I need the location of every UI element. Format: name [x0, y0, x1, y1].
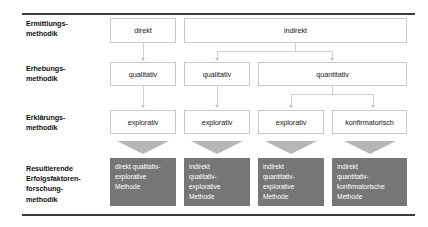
funnel-arrow-icon	[265, 141, 317, 154]
connector-indirekt-bus	[217, 51, 333, 52]
arrowhead-icon	[141, 58, 145, 61]
arrowhead-icon	[330, 58, 334, 61]
arrowhead-icon	[215, 58, 219, 61]
arrowhead-icon	[289, 105, 293, 108]
node-explorativ-3[interactable]: explorativ	[258, 110, 324, 134]
node-explorativ-2[interactable]: explorativ	[184, 110, 250, 134]
node-explorativ-1[interactable]: explorativ	[110, 110, 176, 134]
funnel-arrow-icon	[117, 141, 169, 154]
node-qualitativ-direkt[interactable]: qualitativ	[110, 62, 176, 86]
arrowhead-icon	[215, 105, 219, 108]
funnel-arrow-icon	[191, 141, 243, 154]
node-indirekt[interactable]: indirekt	[184, 18, 407, 43]
result-box-indirekt-quantitativ-konfirmatorisch[interactable]: indirektquantitativ-konfirmatorischeMeth…	[332, 158, 407, 206]
connector-quantitativ-bus	[291, 94, 373, 95]
node-quantitativ[interactable]: quantitativ	[258, 62, 407, 86]
row-label-erhebungsmethodik: Erhebungs-methodik	[26, 64, 106, 84]
connector-qualitativ-explorativ-1	[143, 86, 144, 107]
top-divider-rule	[22, 13, 415, 15]
bottom-divider-rule	[22, 214, 415, 216]
node-direkt[interactable]: direkt	[110, 18, 176, 43]
result-box-indirekt-quantitativ-explorativ[interactable]: indirektquantitativ-explorativeMethode	[258, 158, 324, 206]
funnel-arrow-icon	[344, 141, 396, 154]
row-label-resultierende-methodik: ResultierendeErfolgsfaktoren-forschung-m…	[26, 164, 106, 205]
result-box-indirekt-qualitativ-explorativ[interactable]: indirektqualitativ-explorativeMethode	[184, 158, 250, 206]
node-konfirmatorisch[interactable]: konfirmatorisch	[332, 110, 407, 134]
arrowhead-icon	[141, 105, 145, 108]
arrowhead-icon	[371, 105, 375, 108]
connector-indirekt-stem	[295, 43, 296, 51]
node-qualitativ-indirekt[interactable]: qualitativ	[184, 62, 250, 86]
row-label-ermittlungsmethodik: Ermittlungs-methodik	[26, 19, 106, 39]
diagram-canvas: Ermittlungs-methodik Erhebungs-methodik …	[0, 0, 428, 227]
connector-qualitativ-explorativ-2	[217, 86, 218, 107]
connector-quantitativ-stem	[332, 86, 333, 94]
result-box-direkt-qualitativ-explorativ[interactable]: direkt qualitativ-explorativeMethode	[110, 158, 176, 206]
row-label-erklaerungsmethodik: Erklärungs-methodik	[26, 113, 106, 133]
